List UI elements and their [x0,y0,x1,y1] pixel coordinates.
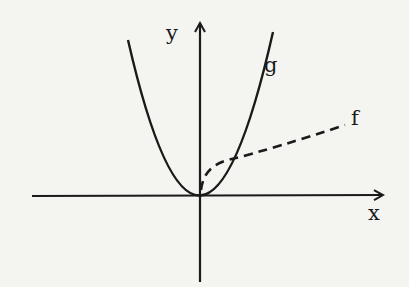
y-axis-label: y [165,21,178,45]
function-graph: y x g f [0,0,409,287]
x-axis [32,195,383,196]
x-axis-label: x [368,201,380,225]
curve-g-label: g [264,53,277,77]
curve-f-label: f [351,106,361,130]
